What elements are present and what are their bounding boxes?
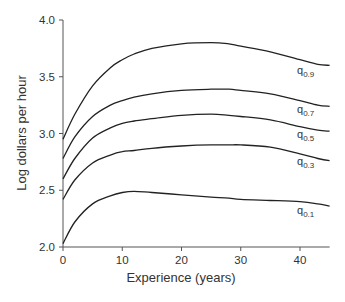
curve-labels: q0.9q0.7q0.5q0.3q0.1 <box>297 64 315 219</box>
y-tick-label: 4.0 <box>39 14 55 26</box>
curve-label-q0.5: q0.5 <box>297 128 315 143</box>
y-axis-label: Log dollars per hour <box>14 75 29 191</box>
x-tick-label: 30 <box>234 254 247 266</box>
x-tick-label: 0 <box>60 254 66 266</box>
curve-q0.5 <box>63 114 330 179</box>
quantile-regression-chart: 2.02.53.03.54.0010203040 q0.9q0.7q0.5q0.… <box>0 0 345 302</box>
y-tick-label: 3.5 <box>39 71 55 83</box>
x-tick-label: 10 <box>116 254 129 266</box>
y-tick-label: 2.0 <box>39 241 55 253</box>
x-tick-label: 40 <box>294 254 307 266</box>
curve-label-q0.9: q0.9 <box>297 64 315 79</box>
x-tick-label: 20 <box>175 254 188 266</box>
curve-q0.3 <box>63 145 330 200</box>
curves <box>63 43 330 244</box>
axes: 2.02.53.03.54.0010203040 <box>39 14 330 266</box>
curve-q0.1 <box>63 191 330 243</box>
y-tick-label: 3.0 <box>39 128 55 140</box>
curve-label-q0.7: q0.7 <box>297 103 315 118</box>
y-tick-label: 2.5 <box>39 184 55 196</box>
x-axis-label: Experience (years) <box>126 270 235 285</box>
curve-label-q0.1: q0.1 <box>297 204 315 219</box>
